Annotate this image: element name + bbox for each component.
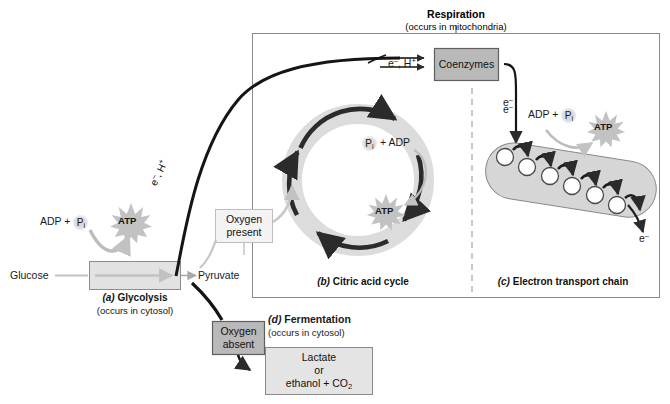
etc-caption-name: Electron transport chain [513,276,629,287]
coenzymes-box[interactable]: Coenzymes [435,49,498,80]
etc-electron-in-charge: – [509,102,513,111]
citric-caption: (b) Citric acid cycle [288,276,438,289]
etc-adp-group: ADP + Pi [528,108,576,123]
etc-electron-in-label: e– [503,103,513,115]
glycolysis-pi-chip: Pi [73,215,88,230]
diagram-vector-layer [0,0,670,404]
glycolysis-atp-label: ATP [118,216,136,227]
pyruvate-label: Pyruvate [198,269,239,281]
oxygen-absent-box[interactable]: Oxygen absent [212,321,265,355]
glycolysis-pi-sub: i [83,221,85,230]
oxygen-present-line1: Oxygen [226,213,262,226]
glycolysis-caption-sub: (occurs in cytosol) [55,305,215,317]
oxygen-absent-to-products [238,355,250,370]
respiration-title-sub: (occurs in mitochondria) [386,21,526,32]
fermentation-caption-sub: (occurs in cytosol) [268,327,351,339]
diagram-canvas: Respiration (occurs in mitochondria) Glu… [0,0,670,404]
coenzyme-hydrogen-symbol: , H [398,57,411,69]
pyruvate-to-oxygen-present [200,240,216,268]
coenzymes-label: Coenzymes [439,58,494,71]
etc-pi-sub: i [571,114,573,123]
coenzyme-input-label: e–, H+ [388,57,416,69]
glycolysis-adp-label: ADP + [40,215,70,227]
fermentation-product-line2: or [286,364,352,377]
citric-caption-name: Citric acid cycle [333,276,409,287]
citric-pi-label: P [365,138,372,149]
oxygen-present-line2: present [226,226,262,239]
coenzyme-hydrogen-charge: + [411,56,415,65]
citric-pi-adp-group: Pi + ADP [362,136,410,151]
etc-electron-out-charge: – [645,231,649,240]
fermentation-products-box: Lactate or ethanol + CO2 [266,348,372,394]
glycolysis-adp-group: ADP + Pi [40,215,88,230]
citric-adp-label: + ADP [380,136,410,148]
etc-caption-tag: (c) [498,276,510,287]
etc-adp-label: ADP + [528,108,558,120]
glycolysis-caption: (a) Glycolysis (occurs in cytosol) [55,292,215,316]
oxygen-present-box[interactable]: Oxygen present [215,209,273,243]
etc-caption: (c) Electron transport chain [478,276,648,289]
glucose-label: Glucose [10,269,49,281]
etc-atp-label: ATP [594,122,612,133]
citric-caption-tag: (b) [317,276,330,287]
oxygen-absent-line2: absent [220,338,256,351]
glycolysis-caption-tag: (a) [102,292,114,303]
glycolysis-caption-name: Glycolysis [117,292,167,303]
fermentation-product-line1: Lactate [286,351,352,364]
fermentation-caption-name: Fermentation [284,313,351,325]
citric-pi-sub: i [372,142,374,151]
citric-pi-chip: Pi [362,136,377,151]
respiration-title: Respiration (occurs in mitochondria) [386,8,526,32]
fermentation-product-line3: ethanol + CO2 [286,377,352,391]
oxygen-absent-line1: Oxygen [220,325,256,338]
fermentation-caption: (d) Fermentation (occurs in cytosol) [268,313,351,339]
etc-atp-synthesis-arrow [546,130,592,148]
fermentation-caption-tag: (d) [268,313,281,325]
citric-atp-label: ATP [375,206,393,217]
etc-electron-out-label: e– [639,232,649,244]
fermentation-co2-sub: 2 [348,382,352,391]
etc-pi-chip: Pi [561,108,576,123]
respiration-title-text: Respiration [386,8,526,21]
fermentation-ethanol-label: ethanol + CO [286,377,348,389]
